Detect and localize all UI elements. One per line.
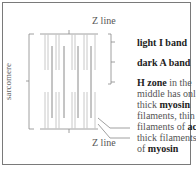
- z-line-top-label: Z line: [92, 15, 116, 26]
- sarcomere-label: sarcomere: [3, 63, 13, 100]
- sarcomere-bracket: [26, 34, 34, 129]
- h-zone-line3-pre: thick: [137, 99, 160, 110]
- z-line-bottom-label: Z line: [92, 137, 116, 148]
- leader-lines: [98, 118, 130, 138]
- h-zone-myosin: myosin: [160, 99, 191, 110]
- dark-band-label: dark A band: [137, 57, 190, 68]
- actin-bold: actin: [188, 121, 196, 132]
- thick-myosin: myosin: [148, 143, 179, 154]
- thick-pre: of: [137, 143, 148, 154]
- h-zone-label: H zone in the: [137, 77, 192, 88]
- band-bracket: [108, 34, 115, 84]
- h-zone-line4: filaments, thin: [137, 110, 195, 121]
- thick-filaments-line1: thick filaments: [137, 132, 196, 143]
- h-zone-line2: middle has only: [137, 88, 196, 99]
- light-band-text: light I band: [137, 37, 187, 48]
- actin-pre: filaments of: [137, 121, 188, 132]
- dark-band-text: dark A band: [137, 57, 190, 68]
- h-zone-bold: H zone: [137, 77, 167, 88]
- actin-label: filaments of actin: [137, 121, 196, 132]
- thick-filaments-line2: of myosin: [137, 143, 178, 154]
- light-band-label: light I band: [137, 37, 187, 48]
- h-zone-rest: in the: [167, 77, 192, 88]
- z-lines: [40, 30, 98, 133]
- h-zone-line3: thick myosin: [137, 99, 190, 110]
